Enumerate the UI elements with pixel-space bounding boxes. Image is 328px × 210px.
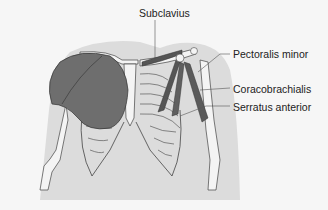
- acromion: [191, 48, 198, 55]
- label-subclavius: Subclavius: [139, 7, 190, 19]
- coracoid-process: [176, 54, 184, 62]
- label-pectoralis-minor: Pectoralis minor: [233, 48, 308, 60]
- label-serratus-anterior: Serratus anterior: [233, 101, 311, 113]
- label-coracobrachialis: Coracobrachialis: [233, 83, 311, 95]
